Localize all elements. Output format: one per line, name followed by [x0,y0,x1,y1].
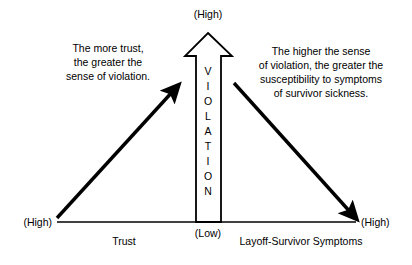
right-axis-title: Layoff-Survivor Symptoms [240,235,363,247]
right-caption-line-1: The higher the sense [272,45,371,57]
violation-letter-5: A [204,125,211,137]
left-caption-line-2: the greater the [74,56,142,68]
right-caption-line-3: susceptibility to symptoms [260,73,382,85]
left-caption-line-1: The more trust, [72,42,143,54]
right-endpoint-label: (High) [361,216,390,228]
violation-letter-7: I [207,155,210,167]
ascending-trust-arrow [57,90,174,218]
violation-high-label: (High) [194,8,223,20]
violation-letter-4: L [205,110,211,122]
right-caption-line-2: of violation, the greater the [259,59,383,71]
violation-model-diagram: The more trust, the greater the sense of… [0,0,412,265]
right-caption-line-4: of survivor sickness. [274,87,369,99]
diagram-canvas: The more trust, the greater the sense of… [0,0,412,265]
violation-letter-6: T [205,140,212,152]
violation-letter-2: I [207,80,210,92]
descending-symptoms-arrow [234,83,352,214]
violation-letter-3: O [204,95,212,107]
violation-low-label: (Low) [195,227,221,239]
left-endpoint-label: (High) [23,216,52,228]
violation-letter-1: V [204,65,211,77]
violation-letter-8: O [204,170,212,182]
left-axis-title: Trust [112,235,136,247]
violation-letter-9: N [204,185,212,197]
left-caption-line-3: sense of violation. [66,70,150,82]
